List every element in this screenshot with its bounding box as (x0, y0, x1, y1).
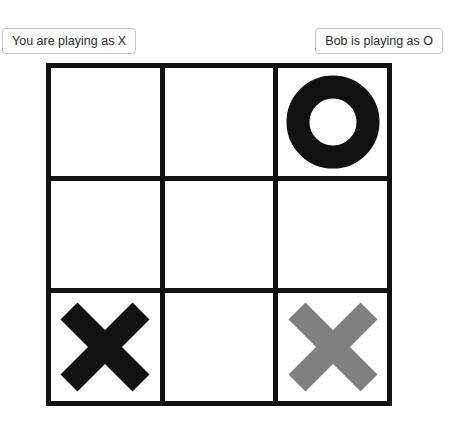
status-bar: You are playing as X Bob is playing as O (0, 28, 454, 56)
tic-tac-toe-board (46, 63, 392, 406)
board-cell-middle-center[interactable] (165, 181, 274, 289)
status-chip-your-symbol: You are playing as X (2, 28, 136, 54)
board-cell-top-left[interactable] (51, 68, 160, 176)
mark-o-icon (285, 74, 381, 170)
board-cell-top-center[interactable] (165, 68, 274, 176)
board-cell-middle-left[interactable] (51, 181, 160, 289)
board-cell-top-right[interactable] (278, 68, 387, 176)
board-cell-middle-right[interactable] (278, 181, 387, 289)
board-cell-bottom-center[interactable] (165, 293, 274, 401)
mark-x-icon (57, 299, 153, 395)
board-cell-bottom-right[interactable] (278, 293, 387, 401)
status-chip-opponent-symbol: Bob is playing as O (315, 28, 443, 54)
board-cell-bottom-left[interactable] (51, 293, 160, 401)
mark-x-icon (285, 299, 381, 395)
